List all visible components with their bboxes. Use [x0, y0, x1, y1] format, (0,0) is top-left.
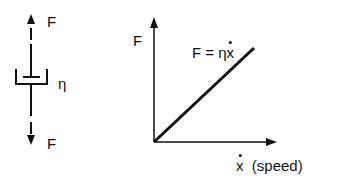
top-force-label: F	[47, 14, 56, 29]
x-axis-var: x	[236, 157, 244, 174]
y-axis-label: F	[133, 33, 142, 48]
top-arrow-icon	[27, 14, 35, 24]
equation-xdot: x	[227, 44, 235, 61]
viscosity-label: η	[58, 76, 66, 91]
bottom-force-label: F	[47, 136, 56, 151]
x-axis-label: x (speed)	[236, 158, 303, 173]
linear-relation-line	[154, 48, 254, 142]
equation-lhs: F = η	[192, 44, 227, 61]
equation-label: F = ηx	[192, 45, 234, 60]
y-axis-arrow-icon	[150, 17, 158, 28]
x-axis-unit: (speed)	[252, 157, 303, 174]
bottom-arrow-icon	[27, 135, 35, 145]
x-axis-arrow-icon	[266, 138, 277, 146]
graph	[150, 17, 277, 146]
dashpot	[16, 14, 47, 145]
